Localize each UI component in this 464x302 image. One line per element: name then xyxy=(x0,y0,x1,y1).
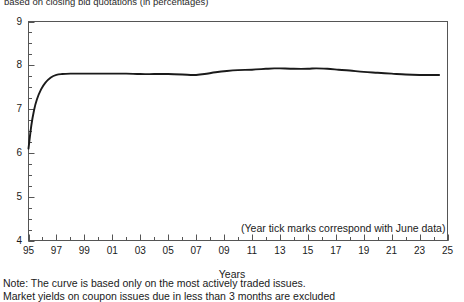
x-axis-tick-label: 15 xyxy=(297,246,319,256)
x-axis-tick-label: 09 xyxy=(213,246,235,256)
x-axis-tick-label: 17 xyxy=(325,246,347,256)
x-axis-tick-label: 25 xyxy=(437,246,459,256)
x-axis-tick-label: 03 xyxy=(129,246,151,256)
y-axis-tick-label: 7 xyxy=(2,104,22,114)
x-axis-tick-label: 99 xyxy=(73,246,95,256)
y-axis-tick-label: 5 xyxy=(2,192,22,202)
x-axis-tick-label: 19 xyxy=(353,246,375,256)
footnote-line: Note: The curve is based only on the mos… xyxy=(3,277,461,290)
y-axis-tick-label: 4 xyxy=(2,236,22,246)
x-axis-tick-label: 95 xyxy=(18,246,40,256)
x-axis-tick-label: 97 xyxy=(45,246,67,256)
x-axis-tick-label: 07 xyxy=(185,246,207,256)
plot-annotation: (Year tick marks correspond with June da… xyxy=(240,222,446,234)
chart-footnotes: Note: The curve is based only on the mos… xyxy=(3,277,461,302)
y-axis-tick-label: 8 xyxy=(2,60,22,70)
x-axis-tick-label: 21 xyxy=(381,246,403,256)
x-axis-tick-label: 11 xyxy=(241,246,263,256)
plot-frame xyxy=(29,22,448,241)
y-axis-tick-label: 6 xyxy=(2,148,22,158)
x-axis-tick-label: 01 xyxy=(101,246,123,256)
x-axis-tick-label: 05 xyxy=(157,246,179,256)
footnote-line: Market yields on coupon issues due in le… xyxy=(3,290,461,302)
x-axis-tick-label: 13 xyxy=(269,246,291,256)
x-axis-tick-label: 23 xyxy=(409,246,431,256)
y-axis-tick-label: 9 xyxy=(2,17,22,27)
chart-area: 987654 95979901030507091113151719212325 … xyxy=(0,0,464,264)
